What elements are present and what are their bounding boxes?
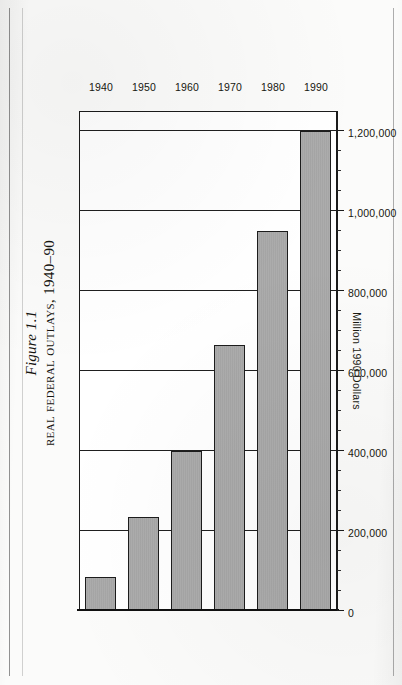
plot-area	[79, 111, 337, 611]
tick-minor	[337, 590, 341, 591]
tick-minor	[337, 230, 341, 231]
tick-minor	[337, 390, 341, 391]
tick-minor	[337, 270, 341, 271]
tick-minor	[337, 150, 341, 151]
gridline	[79, 529, 337, 530]
category-axis: 194019501960197019801990	[79, 67, 337, 107]
tick-minor	[337, 410, 341, 411]
category-label-1980: 1980	[253, 79, 293, 95]
tick-minor	[337, 350, 341, 351]
tick-minor	[337, 170, 341, 171]
tick-major	[337, 129, 344, 130]
gridline	[79, 449, 337, 450]
value-axis-title: Million 1990 Dollars	[351, 111, 363, 611]
rotated-figure: Figure 1.1 Real Federal Outlays, 1940–90…	[21, 23, 381, 663]
plot-frame	[79, 111, 337, 611]
tick-major	[337, 449, 344, 450]
bar-1950	[128, 517, 158, 611]
figure-title: Real Federal Outlays, 1940–90	[40, 23, 60, 663]
bar-1980	[257, 231, 287, 611]
tick-minor	[337, 430, 341, 431]
bar-1940	[85, 577, 115, 611]
gridline	[79, 209, 337, 210]
tick-minor	[337, 490, 341, 491]
tick-minor	[337, 570, 341, 571]
page-edge-rule-left	[9, 8, 10, 676]
bar-1960	[171, 451, 201, 611]
bar-1970	[214, 345, 244, 611]
category-label-1990: 1990	[296, 79, 336, 95]
gridline	[79, 289, 337, 290]
bar-1990	[300, 131, 330, 611]
tick-major	[337, 289, 344, 290]
scanned-book-page: Figure 1.1 Real Federal Outlays, 1940–90…	[0, 0, 402, 685]
value-axis-line	[337, 111, 338, 611]
page-edge-rule-right	[393, 8, 394, 676]
category-label-1960: 1960	[167, 79, 207, 95]
zero-line	[77, 609, 339, 611]
gridline	[79, 369, 337, 370]
tick-major	[337, 369, 344, 370]
tick-minor	[337, 190, 341, 191]
figure-caption: Figure 1.1 Real Federal Outlays, 1940–90	[23, 23, 60, 663]
tick-minor	[337, 330, 341, 331]
tick-minor	[337, 250, 341, 251]
gridline	[79, 129, 337, 130]
tick-major	[337, 529, 344, 530]
category-label-1970: 1970	[210, 79, 250, 95]
tick-minor	[337, 310, 341, 311]
figure-number: Figure 1.1	[23, 23, 40, 663]
category-label-1950: 1950	[124, 79, 164, 95]
tick-major	[337, 609, 344, 610]
tick-minor	[337, 550, 341, 551]
tick-major	[337, 209, 344, 210]
tick-minor	[337, 510, 341, 511]
tick-minor	[337, 470, 341, 471]
category-label-1940: 1940	[81, 79, 121, 95]
